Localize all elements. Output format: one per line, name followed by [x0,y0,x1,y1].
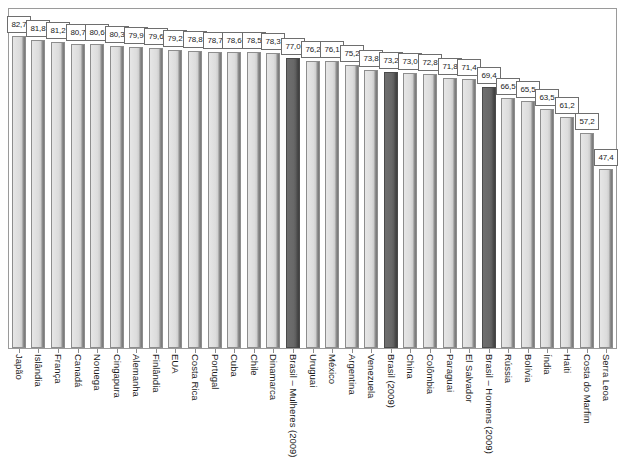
category-label-2: Islândia [31,354,45,470]
category-label-text: Canadá [73,354,84,387]
tick-mark [273,349,274,353]
category-label-text: Uruguai [308,354,319,387]
bar-26[interactable] [501,98,515,348]
bar-10[interactable] [188,51,202,348]
bar-11[interactable] [208,52,222,348]
bar-18[interactable] [345,65,359,348]
category-label-text: Japão [14,354,25,380]
category-label-text: Bolívia [523,354,534,383]
category-label-text: Brasil – Homens (2009) [484,354,495,454]
category-label-9: EUA [168,354,182,470]
category-label-text: Argentina [347,354,358,395]
category-label-25: Brasil – Homens (2009) [482,354,496,470]
category-label-text: China [405,354,416,379]
category-label-text: México [327,354,338,384]
tick-mark [97,349,98,353]
category-label-text: El Salvador [464,354,475,403]
bar-2[interactable] [31,40,45,348]
tick-mark [547,349,548,353]
category-label-30: Costa do Marfim [580,354,594,470]
tick-mark [136,349,137,353]
tick-mark [19,349,20,353]
category-label-21: China [403,354,417,470]
bar-30[interactable] [580,133,594,348]
bar-6[interactable] [110,46,124,348]
bar-21[interactable] [403,73,417,348]
tick-mark [195,349,196,353]
category-label-16: Uruguai [306,354,320,470]
category-label-text: Alemanha [131,354,142,397]
category-label-15: Brasil – Mulheres (2009) [286,354,300,470]
category-label-14: Dinamarca [266,354,280,470]
category-label-text: EUA [170,354,181,374]
bar-4[interactable] [71,44,85,348]
tick-mark [234,349,235,353]
tick-mark [430,349,431,353]
tick-mark [313,349,314,353]
tick-mark [508,349,509,353]
category-label-19: Venezuela [364,354,378,470]
category-label-text: Chile [249,354,260,376]
tick-mark [78,349,79,353]
category-label-text: Cuba [229,354,240,377]
category-label-17: México [325,354,339,470]
bar-23[interactable] [443,78,457,348]
bar-15[interactable] [286,58,300,348]
category-label-20: Brasil (2009) [384,354,398,470]
bar-29[interactable] [560,117,574,348]
bar-20[interactable] [384,72,398,348]
category-label-8: Finlândia [149,354,163,470]
bar-12[interactable] [227,52,241,348]
value-label-29: 61,2 [555,97,579,114]
bar-14[interactable] [266,53,280,348]
bar-22[interactable] [423,74,437,348]
value-label-30: 57,2 [575,113,599,130]
tick-mark [450,349,451,353]
bar-27[interactable] [521,101,535,348]
bar-5[interactable] [90,44,104,348]
bar-9[interactable] [168,50,182,348]
bar-25[interactable] [482,87,496,348]
tick-mark [58,349,59,353]
category-label-text: Cingapura [112,354,123,398]
tick-mark [489,349,490,353]
category-label-4: Canadá [71,354,85,470]
tick-mark [567,349,568,353]
bar-19[interactable] [364,70,378,348]
category-label-3: França [51,354,65,470]
bar-8[interactable] [149,48,163,348]
category-label-text: Islândia [33,354,44,387]
category-label-text: Venezuela [366,354,377,398]
category-label-13: Chile [247,354,261,470]
bar-3[interactable] [51,42,65,348]
tick-mark [371,349,372,353]
bar-16[interactable] [306,61,320,348]
tick-mark [469,349,470,353]
category-label-text: Portugal [210,354,221,389]
category-label-27: Bolívia [521,354,535,470]
category-label-text: Finlândia [151,354,162,393]
bars-layer: 82,781,881,280,780,680,379,979,679,278,8… [9,9,616,348]
category-label-1: Japão [12,354,26,470]
tick-mark [293,349,294,353]
tick-mark [391,349,392,353]
tick-mark [175,349,176,353]
category-label-5: Noruega [90,354,104,470]
category-label-10: Costa Rica [188,354,202,470]
category-label-6: Cingapura [110,354,124,470]
bar-31[interactable] [599,169,613,348]
bar-17[interactable] [325,61,339,348]
category-label-text: Dinamarca [268,354,279,400]
bar-13[interactable] [247,52,261,348]
bar-28[interactable] [540,109,554,348]
tick-mark [254,349,255,353]
category-label-text: Serra Leoa [601,354,612,401]
bar-24[interactable] [462,79,476,348]
bar-1[interactable] [12,36,26,348]
category-label-29: Haiti [560,354,574,470]
category-label-12: Cuba [227,354,241,470]
category-label-text: Índia [542,354,553,375]
tick-mark [156,349,157,353]
bar-7[interactable] [129,47,143,348]
category-labels: JapãoIslândiaFrançaCanadáNoruegaCingapur… [9,354,616,472]
